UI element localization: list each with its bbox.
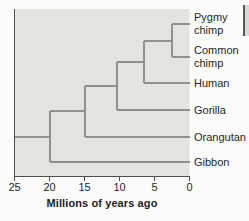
taxon-label-human: Human xyxy=(194,77,229,90)
axis-tick-label-25: 25 xyxy=(8,181,20,193)
axis-tick-label-15: 15 xyxy=(78,181,90,193)
taxon-label-line: Gorilla xyxy=(194,104,226,117)
taxon-label-line: Gibbon xyxy=(194,156,229,169)
taxon-label-line: Human xyxy=(194,77,229,90)
axis-tick-label-10: 10 xyxy=(113,181,125,193)
taxon-label-orangutan: Orangutan xyxy=(194,131,246,144)
taxon-label-pygmy-chimp: Pygmychimp xyxy=(194,11,228,37)
axis-tick-label-5: 5 xyxy=(151,181,157,193)
x-axis-title: Millions of years ago xyxy=(14,197,190,209)
phylogenetic-tree-figure: 2520151050PygmychimpCommonchimpHumanGori… xyxy=(0,0,249,221)
taxon-label-line: chimp xyxy=(194,57,239,70)
taxon-label-gibbon: Gibbon xyxy=(194,156,229,169)
taxon-label-line: Orangutan xyxy=(194,131,246,144)
plot-area xyxy=(15,9,190,177)
page-edge-fragment xyxy=(243,5,249,36)
axis-tick-label-0: 0 xyxy=(186,181,192,193)
taxon-label-gorilla: Gorilla xyxy=(194,104,226,117)
taxon-label-line: Pygmy xyxy=(194,11,228,24)
axis-tick-label-20: 20 xyxy=(43,181,55,193)
taxon-label-line: Common xyxy=(194,44,239,57)
taxon-label-common-chimp: Commonchimp xyxy=(194,44,239,70)
taxon-label-line: chimp xyxy=(194,24,228,37)
